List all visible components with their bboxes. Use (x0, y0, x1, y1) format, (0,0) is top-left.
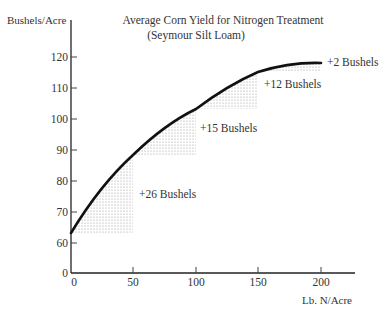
x-ticks (133, 267, 321, 273)
svg-text:60: 60 (57, 237, 69, 249)
annotation-26: +26 Bushels (139, 188, 197, 200)
x-tick-labels: 0 50 100 150 200 (71, 276, 330, 288)
corn-yield-chart: Average Corn Yield for Nitrogen Treatmen… (0, 0, 385, 322)
svg-text:0: 0 (71, 276, 77, 288)
svg-text:80: 80 (57, 175, 69, 187)
svg-text:100: 100 (187, 276, 205, 288)
y-axis-label: Bushels/Acre (7, 14, 66, 26)
chart-title: Average Corn Yield for Nitrogen Treatmen… (123, 14, 325, 27)
svg-text:50: 50 (127, 276, 139, 288)
svg-text:110: 110 (51, 82, 68, 94)
svg-text:120: 120 (51, 51, 69, 63)
svg-text:0: 0 (62, 267, 68, 279)
chart-subtitle: (Seymour Silt Loam) (147, 29, 245, 42)
y-tick-labels: 120 110 100 90 80 70 60 0 (51, 51, 69, 279)
svg-text:90: 90 (57, 144, 69, 156)
annotation-12: +12 Bushels (264, 78, 322, 90)
y-ticks (71, 57, 77, 243)
annotation-15: +15 Bushels (200, 122, 258, 134)
x-axis-label: Lb. N/Acre (302, 294, 352, 306)
svg-text:150: 150 (249, 276, 267, 288)
svg-text:200: 200 (312, 276, 330, 288)
svg-text:100: 100 (51, 113, 69, 125)
svg-text:70: 70 (57, 206, 69, 218)
annotation-2: +2 Bushels (327, 56, 379, 68)
